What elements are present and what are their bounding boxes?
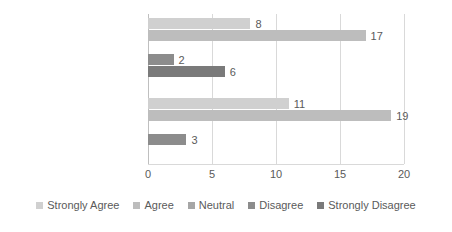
legend-label: Disagree	[259, 200, 303, 211]
legend-item[interactable]: Strongly Disagree	[317, 200, 415, 211]
legend-swatch-icon	[317, 202, 324, 209]
bar-value-label: 11	[289, 98, 305, 109]
bar-slot	[148, 122, 404, 133]
x-tick-5: 5	[209, 169, 215, 180]
x-axis-line	[148, 164, 404, 165]
bar[interactable]	[148, 98, 289, 109]
bar-chart: 81726Helped provide me11193I better reco…	[0, 0, 452, 232]
bar[interactable]	[148, 110, 391, 121]
bar[interactable]	[148, 54, 174, 65]
x-tick-15: 15	[334, 169, 346, 180]
legend-swatch-icon	[188, 202, 195, 209]
bar-value-label: 19	[391, 110, 408, 121]
legend-item[interactable]: Agree	[133, 200, 173, 211]
bar-value-label: 6	[225, 66, 236, 77]
x-tick-0: 0	[145, 169, 151, 180]
bar[interactable]	[148, 134, 186, 145]
bar-slot: 6	[148, 66, 404, 77]
chart-legend: Strongly AgreeAgreeNeutralDisagreeStrong…	[0, 200, 452, 211]
legend-item[interactable]: Disagree	[248, 200, 303, 211]
legend-item[interactable]: Strongly Agree	[36, 200, 119, 211]
bar-value-label: 2	[174, 52, 199, 67]
legend-label: Neutral	[199, 200, 234, 211]
bar[interactable]	[148, 18, 250, 29]
legend-label: Strongly Disagree	[328, 200, 415, 211]
bar-slot: 11	[148, 98, 404, 109]
gridline-20	[404, 14, 405, 164]
x-tick-20: 20	[398, 169, 410, 180]
bar[interactable]	[148, 66, 225, 77]
legend-label: Agree	[144, 200, 173, 211]
plot-area: 81726Helped provide me11193I better reco…	[148, 14, 404, 164]
bar-slot: 2	[148, 54, 404, 65]
bar-slot	[148, 146, 404, 157]
bar-value-label: 3	[186, 134, 197, 145]
bar-slot: 3	[148, 134, 404, 145]
bar-slot: 19	[148, 110, 404, 121]
bar[interactable]	[148, 30, 366, 41]
bar-value-label: 17	[366, 30, 383, 41]
legend-swatch-icon	[248, 202, 255, 209]
bar-slot: 8	[148, 18, 404, 29]
bar-slot: 17	[148, 30, 404, 41]
legend-label: Strongly Agree	[47, 200, 119, 211]
legend-item[interactable]: Neutral	[188, 200, 234, 211]
x-tick-10: 10	[270, 169, 282, 180]
legend-swatch-icon	[36, 202, 43, 209]
legend-swatch-icon	[133, 202, 140, 209]
bar-value-label: 8	[250, 18, 261, 29]
